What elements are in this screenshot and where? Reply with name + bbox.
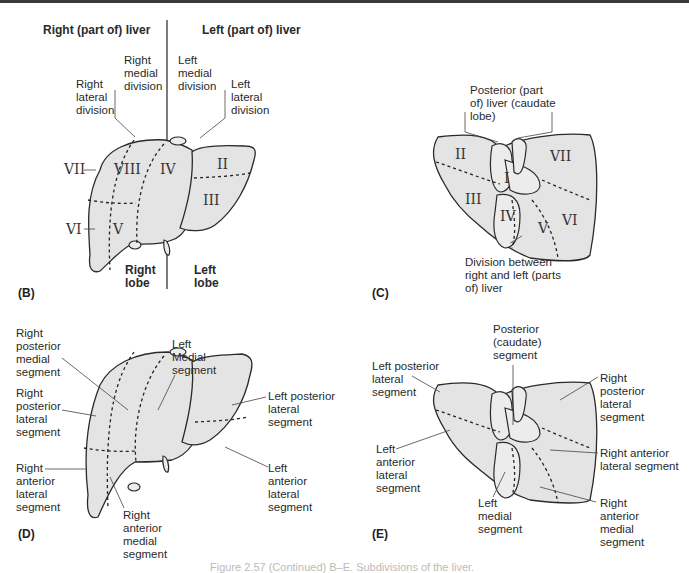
right-posterior-medial-segment-label: Right posterior medial segment [16,327,61,379]
segment-iv-label: IV [160,161,176,177]
d-right-anterior-medial-segment-label: Right anterior medial segment [123,509,167,561]
c-segment-vi-label: VI [562,212,578,228]
c-segment-iii-label: III [465,191,482,207]
right-part-of-liver-header: Right (part of) liver [43,24,150,37]
liver-panel-d [45,348,268,518]
e-left-posterior-lateral-segment-label: Left posterior lateral segment [372,360,439,399]
right-lateral-division-label: Right lateral division [76,78,114,117]
panel-e-label: (E) [372,527,388,541]
e-left-anterior-lateral-segment-label: Left anterior lateral segment [376,443,420,495]
segment-v-label: V [113,221,123,237]
right-posterior-lateral-segment-label: Right posterior lateral segment [16,387,61,439]
e-right-anterior-lateral-segment-label: Right anterior lateral segment [600,447,679,473]
panel-b-label: (B) [18,286,35,300]
e-left-medial-segment-label: Left medial segment [478,497,522,536]
d-left-anterior-lateral-segment-label: Left anterior lateral segment [268,462,312,514]
panel-c-label: (C) [372,286,389,300]
c-segment-ii-label: II [455,146,466,162]
e-right-posterior-lateral-segment-label: Right posterior lateral segment [600,372,645,424]
posterior-caudate-segment-label: Posterior (caudate) segment [493,323,542,362]
right-lobe-label: Right lobe [125,264,156,290]
liver-panel-b [84,20,255,289]
d-left-medial-segment-label: Left Medial segment [172,338,216,377]
division-between-right-left-label: Division between right and left (parts o… [465,256,561,295]
segment-vii-label: VII [64,161,85,177]
liver-panel-c [434,112,597,261]
c-segment-i-label: I [504,170,510,186]
panel-d-label: (D) [18,527,35,541]
left-lateral-division-label: Left lateral division [231,78,269,117]
right-medial-division-label: Right medial division [124,54,162,93]
segment-vi-label: VI [66,221,82,237]
c-segment-iv-label: IV [500,208,516,224]
d-right-anterior-lateral-segment-label: Right anterior lateral segment [16,462,60,514]
segment-viii-label: VIII [114,161,141,177]
left-lobe-label: Left lobe [194,264,219,290]
c-segment-vii-label: VII [550,148,571,164]
d-left-posterior-lateral-segment-label: Left posterior lateral segment [268,390,335,429]
left-part-of-liver-header: Left (part of) liver [202,24,301,37]
left-medial-division-label: Left medial division [178,54,216,93]
caudate-lobe-label: Posterior (part of) liver (caudate lobe) [470,84,556,123]
segment-ii-label: II [217,156,228,172]
c-segment-v-label: V [538,220,548,236]
segment-iii-label: III [203,192,220,208]
e-right-anterior-medial-segment-label: Right anterior medial segment [600,497,644,549]
figure-caption: Figure 2.57 (Continued) B–E. Subdivision… [210,561,474,573]
